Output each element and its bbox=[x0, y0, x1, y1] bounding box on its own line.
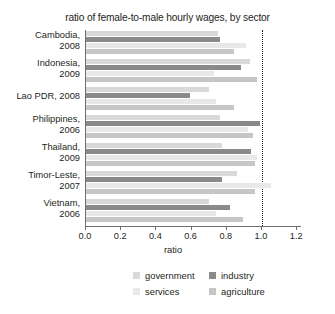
y-axis-label: Timor-Leste,2007 bbox=[0, 170, 80, 191]
y-axis-label: Indonesia,2009 bbox=[0, 58, 80, 79]
bar-government bbox=[86, 171, 237, 176]
x-tick-mark bbox=[155, 226, 156, 230]
x-tick-label: 1.2 bbox=[281, 231, 311, 241]
y-axis-label: Lao PDR, 2008 bbox=[0, 91, 80, 102]
bar-agriculture bbox=[86, 217, 243, 222]
bar-government bbox=[86, 87, 209, 92]
x-tick-label: 0.2 bbox=[105, 231, 135, 241]
legend-item-industry[interactable]: industry bbox=[209, 270, 254, 281]
bar-agriculture bbox=[86, 77, 257, 82]
y-axis-label: Vietnam,2006 bbox=[0, 198, 80, 219]
x-tick-mark bbox=[120, 226, 121, 230]
x-tick-label: 1.0 bbox=[246, 231, 276, 241]
bar-group bbox=[86, 170, 302, 198]
legend-swatch-icon bbox=[209, 272, 216, 279]
legend-item-agriculture[interactable]: agriculture bbox=[209, 286, 265, 297]
x-tick-mark bbox=[226, 226, 227, 230]
legend-swatch-icon bbox=[133, 288, 140, 295]
x-axis-ticks: 0.00.20.40.60.81.01.2 bbox=[85, 226, 301, 242]
bar-services bbox=[86, 43, 246, 48]
x-tick-label: 0.4 bbox=[140, 231, 170, 241]
legend-item-services[interactable]: services bbox=[133, 286, 179, 297]
chart-title: ratio of female-to-male hourly wages, by… bbox=[0, 12, 335, 23]
bar-government bbox=[86, 31, 218, 36]
x-tick-mark bbox=[85, 226, 86, 230]
bar-agriculture bbox=[86, 161, 255, 166]
bar-industry bbox=[86, 149, 251, 154]
bar-government bbox=[86, 199, 209, 204]
chart-legend: governmentindustryservicesagriculture bbox=[0, 270, 335, 310]
legend-label: industry bbox=[221, 270, 254, 281]
legend-label: services bbox=[145, 286, 179, 297]
bar-group bbox=[86, 114, 302, 142]
bar-government bbox=[86, 143, 222, 148]
bar-services bbox=[86, 183, 271, 188]
bar-services bbox=[86, 99, 216, 104]
legend-label: agriculture bbox=[221, 286, 265, 297]
bar-industry bbox=[86, 205, 230, 210]
x-tick-label: 0.8 bbox=[211, 231, 241, 241]
bar-industry bbox=[86, 65, 241, 70]
bar-industry bbox=[86, 93, 190, 98]
legend-item-government[interactable]: government bbox=[133, 270, 195, 281]
bar-agriculture bbox=[86, 189, 255, 194]
y-axis-label: Thailand,2009 bbox=[0, 142, 80, 163]
x-tick-label: 0.0 bbox=[70, 231, 100, 241]
y-axis-label: Philippines,2006 bbox=[0, 114, 80, 135]
bar-services bbox=[86, 71, 214, 76]
bar-industry bbox=[86, 177, 222, 182]
bar-group bbox=[86, 58, 302, 86]
chart-container: ratio of female-to-male hourly wages, by… bbox=[0, 0, 335, 314]
bar-industry bbox=[86, 37, 220, 42]
legend-label: government bbox=[145, 270, 195, 281]
legend-swatch-icon bbox=[209, 288, 216, 295]
bar-group bbox=[86, 30, 302, 58]
bar-services bbox=[86, 155, 257, 160]
x-tick-mark bbox=[296, 226, 297, 230]
bar-agriculture bbox=[86, 105, 234, 110]
bar-industry bbox=[86, 121, 260, 126]
bar-agriculture bbox=[86, 133, 253, 138]
bar-group bbox=[86, 198, 302, 226]
y-axis-label: Cambodia,2008 bbox=[0, 30, 80, 51]
bar-government bbox=[86, 59, 250, 64]
bar-services bbox=[86, 127, 248, 132]
x-tick-label: 0.6 bbox=[176, 231, 206, 241]
bar-services bbox=[86, 211, 216, 216]
y-axis-category-labels: Cambodia,2008Indonesia,2009Lao PDR, 2008… bbox=[0, 30, 80, 226]
bar-government bbox=[86, 115, 220, 120]
legend-swatch-icon bbox=[133, 272, 140, 279]
plot-area bbox=[85, 30, 302, 226]
bar-agriculture bbox=[86, 49, 234, 54]
x-tick-mark bbox=[191, 226, 192, 230]
bar-group bbox=[86, 86, 302, 114]
bar-group bbox=[86, 142, 302, 170]
x-axis-title: ratio bbox=[85, 244, 261, 255]
x-tick-mark bbox=[261, 226, 262, 230]
